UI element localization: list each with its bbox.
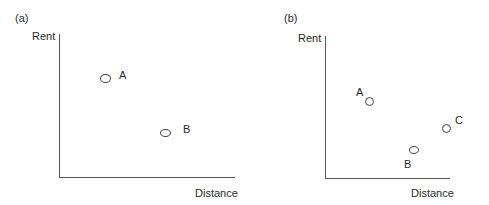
- y-axis: [325, 36, 326, 179]
- point-b-label: B: [404, 159, 411, 170]
- point-c-marker: [442, 124, 451, 133]
- y-axis-label: Rent: [298, 33, 321, 44]
- x-axis: [325, 178, 450, 179]
- point-c-label: C: [455, 115, 463, 126]
- point-b-marker: [409, 146, 419, 154]
- point-a-label: A: [356, 87, 363, 98]
- x-axis-label: Distance: [411, 188, 454, 199]
- panel-b: (b) Rent Distance A B C: [0, 0, 489, 205]
- point-a-marker: [365, 97, 374, 106]
- panel-tag: (b): [284, 13, 297, 24]
